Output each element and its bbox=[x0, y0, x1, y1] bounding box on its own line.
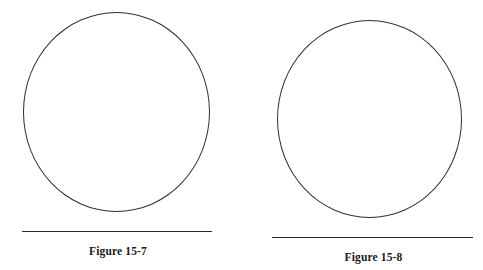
circle-outline-icon bbox=[23, 12, 210, 212]
circle-outline-icon bbox=[277, 20, 462, 218]
figure-page: Figure 15-7 Figure 15-8 bbox=[0, 0, 483, 270]
baseline-rule bbox=[272, 237, 473, 238]
baseline-rule bbox=[22, 231, 212, 232]
figure-block-15-8: Figure 15-8 bbox=[241, 0, 483, 270]
figure-caption: Figure 15-7 bbox=[0, 245, 236, 258]
figure-block-15-7: Figure 15-7 bbox=[0, 0, 242, 270]
figure-caption: Figure 15-8 bbox=[271, 251, 476, 264]
